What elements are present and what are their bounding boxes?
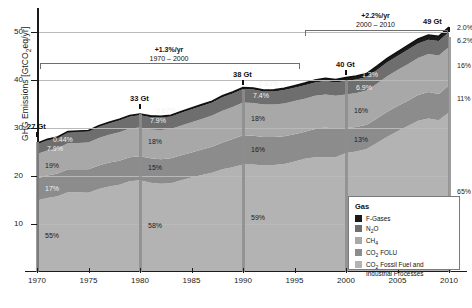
x-tick-1975: 1975 <box>69 276 109 285</box>
y-tick-40: 40 <box>0 75 23 84</box>
legend-swatch-ch4 <box>355 237 362 244</box>
share-label-2010-co2folu: 11% <box>457 95 471 102</box>
legend-label-co2-folu: CO2 FOLU <box>366 249 397 259</box>
share-label-1970-co2folu: 17% <box>45 185 59 192</box>
total-tick-1990 <box>242 80 244 85</box>
growth-rate-2: +2.2%/yr <box>305 12 446 21</box>
x-tickmark-2000 <box>346 268 347 273</box>
share-label-2010-fgases: 2.0% <box>457 24 472 31</box>
share-label-2000-ch4: 16% <box>354 107 368 114</box>
share-label-2010-n2o: 6.2% <box>457 37 472 44</box>
x-tickmark-1980 <box>140 268 141 273</box>
legend-swatch-f-gases <box>355 215 362 222</box>
growth-period-2: 2000 – 2010 <box>305 21 446 30</box>
total-label-1990: 38 Gt <box>233 70 252 79</box>
x-tickmark-1985 <box>192 268 193 273</box>
share-label-1980-co2ffi: 58% <box>148 222 162 229</box>
y-tickmark-50 <box>31 32 37 33</box>
x-tickmark-1995 <box>295 268 296 273</box>
share-label-1980-fgases: 0.67% <box>156 107 176 114</box>
legend-swatch-co2-ffi <box>355 261 362 268</box>
share-label-2010-ch4: 16% <box>457 62 471 69</box>
growth-rate-1: +1.3%/yr <box>99 46 239 55</box>
total-tick-1970 <box>36 132 38 137</box>
legend-swatch-co2-folu <box>355 249 362 256</box>
x-tickmark-1970 <box>37 268 38 273</box>
share-label-1970-n2o: 7.9% <box>47 145 63 152</box>
y-tickmark-10 <box>31 224 37 225</box>
legend-label-ch4: CH4 <box>366 237 378 247</box>
x-tickmark-1990 <box>243 268 244 273</box>
share-label-2000-n2o: 6.9% <box>356 84 372 91</box>
legend: Gas F-Gases N2O CH4 CO2 FOLU CO2 Fossil … <box>348 196 460 270</box>
legend-swatch-n2o <box>355 225 362 232</box>
y-tickmark-40 <box>31 80 37 81</box>
share-label-1990-co2ffi: 59% <box>251 214 265 221</box>
x-tickmark-1975 <box>89 268 90 273</box>
year-marker-1970 <box>36 142 39 272</box>
total-label-2000: 40 Gt <box>336 60 355 69</box>
share-label-1980-co2folu: 15% <box>148 164 162 171</box>
legend-item-ch4: CH4 <box>355 237 453 247</box>
share-label-1970-fgases: 0.44% <box>53 136 73 143</box>
legend-item-co2-ffi: CO2 Fossil Fuel andIndustrial Processes <box>355 261 453 279</box>
legend-label-n2o: N2O <box>366 225 378 235</box>
growth-bracket-2000-2010 <box>305 30 448 36</box>
y-tick-30: 30 <box>0 123 23 132</box>
total-tick-1980 <box>139 104 141 109</box>
share-label-1990-n2o: 7.4% <box>253 92 269 99</box>
growth-bracket-1970-2000 <box>40 63 300 69</box>
legend-title: Gas <box>355 202 453 211</box>
share-label-1980-ch4: 18% <box>148 138 162 145</box>
total-tick-2000 <box>345 70 347 75</box>
share-label-2010-co2ffi: 65% <box>457 188 471 195</box>
total-label-1970: 27 Gt <box>27 122 46 131</box>
growth-annotation-1970-2000: +1.3%/yr 1970 – 2000 <box>99 46 239 64</box>
legend-label-co2-ffi: CO2 Fossil Fuel andIndustrial Processes <box>366 261 424 279</box>
x-tick-1980: 1980 <box>120 276 160 285</box>
y-tickmark-20 <box>31 176 37 177</box>
x-tick-1995: 1995 <box>275 276 315 285</box>
y-tick-10: 10 <box>0 219 23 228</box>
share-label-1980-n2o: 7.9% <box>150 117 166 124</box>
total-label-1980: 33 Gt <box>130 94 149 103</box>
year-marker-1990 <box>242 90 245 272</box>
share-label-1970-co2ffi: 55% <box>45 232 59 239</box>
legend-item-n2o: N2O <box>355 225 453 235</box>
total-tick-2010 <box>448 27 450 32</box>
y-tick-50: 50 <box>0 27 23 36</box>
x-tick-1985: 1985 <box>172 276 212 285</box>
year-marker-1980 <box>139 114 142 272</box>
ghg-emissions-chart: GHG Emissions [GtCO2eq/yr] 1020304050197… <box>0 0 472 308</box>
growth-annotation-2000-2010: +2.2%/yr 2000 – 2010 <box>305 12 446 30</box>
share-label-1990-fgases: 0.81% <box>259 80 279 87</box>
share-label-1990-co2folu: 16% <box>251 146 265 153</box>
share-label-1990-ch4: 18% <box>251 115 265 122</box>
share-label-2000-fgases: 1.3% <box>362 71 378 78</box>
growth-period-1: 1970 – 2000 <box>99 55 239 64</box>
legend-label-f-gases: F-Gases <box>366 215 391 223</box>
legend-item-co2-folu: CO2 FOLU <box>355 249 453 259</box>
legend-item-f-gases: F-Gases <box>355 215 453 223</box>
share-label-1970-ch4: 19% <box>45 162 59 169</box>
share-label-2000-co2folu: 13% <box>354 136 368 143</box>
y-tick-20: 20 <box>0 171 23 180</box>
x-tick-1990: 1990 <box>223 276 263 285</box>
x-tick-1970: 1970 <box>17 276 57 285</box>
